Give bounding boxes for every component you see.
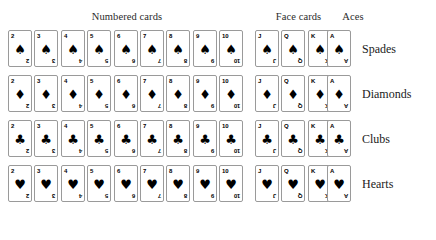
card-rank-bottom-right: 3 [52,103,55,109]
card-rank-bottom-right: 10 [234,193,240,199]
card-rank-top-left: A [330,33,334,39]
card-a-of-spades[interactable]: A♠A [327,30,351,67]
card-8-of-hearts[interactable]: 8♥8 [166,165,190,202]
card-rank-bottom-right: 5 [105,193,108,199]
suit-pip-clubs-icon: ♣ [9,132,31,145]
card-3-of-clubs[interactable]: 3♣3 [34,120,58,157]
card-9-of-hearts[interactable]: 9♥9 [193,165,217,202]
card-rank-top-left: 7 [143,123,146,129]
suit-pip-spades-icon: ♠ [35,42,57,55]
card-a-of-clubs[interactable]: A♣A [327,120,351,157]
card-9-of-diamonds[interactable]: 9♦9 [193,75,217,112]
card-9-of-spades[interactable]: 9♠9 [193,30,217,67]
card-2-of-spades[interactable]: 2♠2 [8,30,32,67]
suit-pip-spades-icon: ♠ [167,42,189,55]
card-j-of-clubs[interactable]: J♣J [255,120,279,157]
card-5-of-clubs[interactable]: 5♣5 [87,120,111,157]
card-rank-bottom-right: 7 [158,148,161,154]
card-8-of-diamonds[interactable]: 8♦8 [166,75,190,112]
card-8-of-spades[interactable]: 8♠8 [166,30,190,67]
card-rank-bottom-right: Q [298,148,302,154]
suit-pip-spades-icon: ♠ [141,42,163,55]
card-rank-top-left: 9 [196,168,199,174]
card-rank-bottom-right: A [344,103,348,109]
card-rank-bottom-right: 7 [158,193,161,199]
card-rank-top-left: 6 [117,123,120,129]
card-10-of-diamonds[interactable]: 10♦10 [219,75,243,112]
card-j-of-diamonds[interactable]: J♦J [255,75,279,112]
card-rank-top-left: 4 [64,78,67,84]
card-rank-top-left: 3 [37,33,40,39]
card-2-of-hearts[interactable]: 2♥2 [8,165,32,202]
card-rank-top-left: 8 [169,168,172,174]
card-rank-bottom-right: 5 [105,58,108,64]
suit-pip-spades-icon: ♠ [115,42,137,55]
card-rank-bottom-right: A [344,58,348,64]
card-rank-bottom-right: 6 [132,193,135,199]
card-7-of-spades[interactable]: 7♠7 [140,30,164,67]
card-3-of-spades[interactable]: 3♠3 [34,30,58,67]
card-10-of-spades[interactable]: 10♠10 [219,30,243,67]
card-rank-bottom-right: 9 [211,193,214,199]
card-rank-bottom-right: 10 [234,148,240,154]
card-q-of-clubs[interactable]: Q♣Q [281,120,305,157]
card-7-of-hearts[interactable]: 7♥7 [140,165,164,202]
suit-pip-diamonds-icon: ♦ [194,87,216,100]
card-6-of-spades[interactable]: 6♠6 [114,30,138,67]
card-4-of-clubs[interactable]: 4♣4 [61,120,85,157]
card-5-of-hearts[interactable]: 5♥5 [87,165,111,202]
card-10-of-clubs[interactable]: 10♣10 [219,120,243,157]
card-rank-top-left: 10 [222,78,228,84]
card-rank-top-left: K [311,168,315,174]
card-rank-bottom-right: 4 [79,193,82,199]
card-9-of-clubs[interactable]: 9♣9 [193,120,217,157]
card-6-of-hearts[interactable]: 6♥6 [114,165,138,202]
card-8-of-clubs[interactable]: 8♣8 [166,120,190,157]
suit-pip-diamonds-icon: ♦ [9,87,31,100]
card-2-of-clubs[interactable]: 2♣2 [8,120,32,157]
card-rank-top-left: 7 [143,33,146,39]
card-3-of-diamonds[interactable]: 3♦3 [34,75,58,112]
suit-pip-clubs-icon: ♣ [62,132,84,145]
card-6-of-diamonds[interactable]: 6♦6 [114,75,138,112]
card-5-of-diamonds[interactable]: 5♦5 [87,75,111,112]
card-7-of-clubs[interactable]: 7♣7 [140,120,164,157]
card-rank-top-left: J [258,123,261,129]
card-a-of-diamonds[interactable]: A♦A [327,75,351,112]
card-rank-bottom-right: Q [298,103,302,109]
card-rank-top-left: J [258,78,261,84]
card-7-of-diamonds[interactable]: 7♦7 [140,75,164,112]
card-rank-top-left: 8 [169,123,172,129]
card-rank-bottom-right: 4 [79,103,82,109]
card-rank-bottom-right: 6 [132,58,135,64]
card-q-of-diamonds[interactable]: Q♦Q [281,75,305,112]
card-4-of-diamonds[interactable]: 4♦4 [61,75,85,112]
card-rank-top-left: 3 [37,78,40,84]
suit-pip-clubs-icon: ♣ [220,132,242,145]
card-rank-top-left: 2 [11,168,14,174]
card-4-of-hearts[interactable]: 4♥4 [61,165,85,202]
suit-pip-hearts-icon: ♥ [88,177,110,190]
card-rank-top-left: A [330,168,334,174]
row-label-diamonds: Diamonds [362,88,411,100]
card-rank-top-left: Q [284,123,288,129]
card-q-of-hearts[interactable]: Q♥Q [281,165,305,202]
suit-pip-hearts-icon: ♥ [220,177,242,190]
card-6-of-clubs[interactable]: 6♣6 [114,120,138,157]
card-10-of-hearts[interactable]: 10♥10 [219,165,243,202]
card-3-of-hearts[interactable]: 3♥3 [34,165,58,202]
suit-pip-hearts-icon: ♥ [141,177,163,190]
card-q-of-spades[interactable]: Q♠Q [281,30,305,67]
card-rank-bottom-right: 2 [26,103,29,109]
card-rank-top-left: 10 [222,123,228,129]
card-4-of-spades[interactable]: 4♠4 [61,30,85,67]
card-5-of-spades[interactable]: 5♠5 [87,30,111,67]
card-2-of-diamonds[interactable]: 2♦2 [8,75,32,112]
card-rank-bottom-right: 3 [52,148,55,154]
card-j-of-spades[interactable]: J♠J [255,30,279,67]
card-a-of-hearts[interactable]: A♥A [327,165,351,202]
suit-pip-hearts-icon: ♥ [282,177,304,190]
card-rank-top-left: 4 [64,168,67,174]
card-j-of-hearts[interactable]: J♥J [255,165,279,202]
card-rank-bottom-right: 9 [211,103,214,109]
